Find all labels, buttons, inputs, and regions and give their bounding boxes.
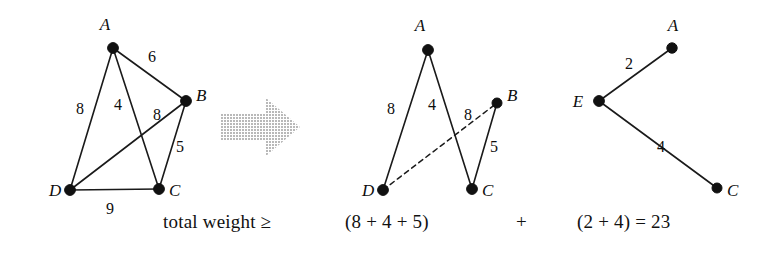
weight-label-E-C: 4 (657, 138, 665, 155)
left-graph: A B C D 6 8 4 8 5 9 (48, 15, 207, 217)
node-label-C: C (727, 181, 739, 200)
weight-label-B-C: 5 (176, 138, 184, 155)
edge-D-C (70, 189, 159, 190)
node-label-D: D (48, 181, 62, 200)
node-label-A: A (667, 16, 679, 35)
weight-label-A-B: 6 (148, 48, 156, 65)
node-label-C: C (482, 181, 494, 200)
caption-term-two: (2 + 4) = 23 (577, 211, 671, 233)
node-A (667, 43, 677, 53)
weight-label-D-B: 8 (153, 106, 161, 123)
node-C (154, 184, 165, 195)
figure-canvas: A B C D 6 8 4 8 5 9 A B C D 8 4 8 (0, 0, 776, 263)
weight-label-D-B: 8 (464, 106, 472, 123)
edge-E-A (599, 48, 672, 101)
weight-label-D-C: 9 (106, 200, 114, 217)
right-graph: A E C 2 4 (572, 16, 739, 200)
node-C (712, 183, 722, 193)
weight-label-B-C: 5 (490, 138, 498, 155)
node-label-A: A (99, 15, 111, 34)
weight-label-A-C: 4 (428, 96, 436, 113)
edge-D-B (70, 101, 186, 190)
node-label-B: B (196, 86, 207, 105)
weight-label-A-D: 8 (76, 100, 84, 117)
edge-A-D (383, 50, 428, 190)
node-C (467, 184, 478, 195)
node-label-B: B (507, 86, 518, 105)
node-B (181, 96, 192, 107)
weight-label-A-C: 4 (114, 96, 122, 113)
node-D (65, 185, 76, 196)
node-label-A: A (414, 16, 426, 35)
edge-D-B-dashed (383, 103, 497, 190)
weight-label-E-A: 2 (625, 55, 633, 72)
node-label-E: E (572, 92, 584, 111)
node-B (492, 98, 502, 108)
caption-total-weight: total weight ≥ (163, 211, 271, 233)
node-A (423, 45, 434, 56)
middle-graph: A B C D 8 4 8 5 (361, 16, 518, 200)
caption-plus-operator: + (516, 211, 527, 233)
node-E (594, 96, 605, 107)
node-label-C: C (169, 181, 181, 200)
weight-label-A-D: 8 (387, 100, 395, 117)
node-A (108, 43, 119, 54)
node-D (378, 185, 389, 196)
edge-A-D (70, 48, 113, 190)
node-label-D: D (361, 181, 375, 200)
caption-term-one: (8 + 4 + 5) (345, 211, 429, 233)
